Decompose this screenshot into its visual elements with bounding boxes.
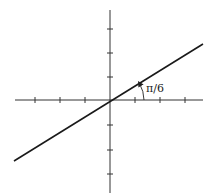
angle-arc-arrow (140, 84, 145, 101)
angle-label: π/6 (146, 83, 164, 94)
angled-line (14, 44, 203, 161)
angle-diagram: π/6 (0, 0, 208, 195)
diagram-canvas (0, 0, 208, 195)
